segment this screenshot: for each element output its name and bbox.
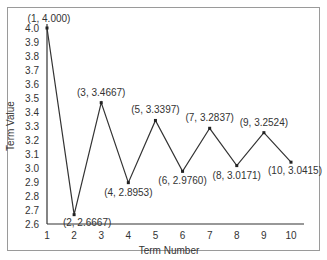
data-point-label: (7, 3.2837) <box>185 112 233 123</box>
data-point <box>208 127 211 130</box>
data-point <box>127 181 130 184</box>
y-tick-label: 3.7 <box>25 65 39 76</box>
y-tick-label: 3.4 <box>25 107 39 118</box>
y-tick-label: 3.2 <box>25 135 39 146</box>
y-tick-label: 3.9 <box>25 37 39 48</box>
x-tick-label: 8 <box>234 230 240 241</box>
data-point-label: (3, 3.4667) <box>77 87 125 98</box>
data-point <box>46 27 49 30</box>
x-tick-label: 9 <box>261 230 267 241</box>
data-point <box>100 101 103 104</box>
x-tick-label: 5 <box>153 230 159 241</box>
x-tick-label: 4 <box>126 230 132 241</box>
x-tick-label: 10 <box>285 230 297 241</box>
x-axis-label: Term Number <box>139 245 200 256</box>
x-tick-label: 6 <box>180 230 186 241</box>
x-tick-label: 7 <box>207 230 213 241</box>
y-tick-label: 3.6 <box>25 79 39 90</box>
data-point <box>235 164 238 167</box>
y-tick-label: 2.7 <box>25 205 39 216</box>
data-point-label: (2, 2.6667) <box>63 217 111 228</box>
data-point <box>181 170 184 173</box>
data-point-label: (4, 2.8953) <box>104 187 152 198</box>
data-point <box>290 161 293 164</box>
y-tick-label: 3.3 <box>25 121 39 132</box>
y-tick-label: 3.0 <box>25 163 39 174</box>
y-axis-label: Term Value <box>5 101 16 151</box>
y-tick-label: 2.9 <box>25 177 39 188</box>
y-tick-label: 3.1 <box>25 149 39 160</box>
data-point <box>262 131 265 134</box>
x-tick-label: 2 <box>71 230 77 241</box>
line-chart: 2.62.72.82.93.03.13.23.33.43.53.63.73.83… <box>0 0 327 260</box>
data-point-label: (5, 3.3397) <box>131 104 179 115</box>
x-tick-label: 3 <box>98 230 104 241</box>
data-point-label: (1, 4.000) <box>28 13 71 24</box>
data-point-label: (10, 3.0415) <box>268 165 322 176</box>
data-point-label: (8, 3.0171) <box>213 170 261 181</box>
data-point-label: (6, 2.9760) <box>158 175 206 186</box>
y-tick-label: 2.6 <box>25 219 39 230</box>
y-tick-label: 3.8 <box>25 51 39 62</box>
data-point <box>154 119 157 122</box>
data-point-label: (9, 3.2524) <box>240 117 288 128</box>
y-tick-label: 2.8 <box>25 191 39 202</box>
x-tick-label: 1 <box>44 230 50 241</box>
y-tick-label: 3.5 <box>25 93 39 104</box>
y-tick-label: 4.0 <box>25 23 39 34</box>
